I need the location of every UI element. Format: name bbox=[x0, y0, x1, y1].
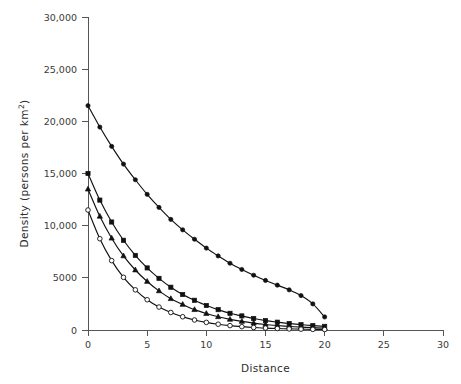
data-point-marker bbox=[204, 320, 209, 325]
data-point-marker bbox=[252, 273, 256, 277]
data-point-marker bbox=[86, 171, 90, 175]
data-point-marker bbox=[192, 298, 196, 302]
data-point-marker bbox=[240, 314, 244, 318]
data-point-marker bbox=[322, 327, 327, 332]
svg-text:Density (persons per km2): Density (persons per km2) bbox=[17, 99, 30, 247]
data-point-marker bbox=[157, 205, 161, 209]
data-point-marker bbox=[311, 302, 315, 306]
x-tick-label: 25 bbox=[378, 339, 390, 350]
data-point-marker bbox=[275, 283, 279, 287]
data-point-marker bbox=[287, 288, 291, 292]
data-point-marker bbox=[192, 237, 196, 241]
y-tick-label: 10,000 bbox=[44, 220, 77, 231]
data-point-marker bbox=[121, 162, 125, 166]
data-point-marker bbox=[181, 228, 185, 232]
data-point-marker bbox=[86, 104, 90, 108]
data-point-marker bbox=[145, 266, 149, 270]
data-point-marker bbox=[311, 327, 316, 332]
data-point-marker bbox=[263, 326, 268, 331]
data-point-marker bbox=[240, 267, 244, 271]
x-tick-label: 10 bbox=[200, 339, 212, 350]
data-point-marker bbox=[109, 258, 114, 263]
data-point-marker bbox=[299, 293, 303, 297]
data-point-marker bbox=[204, 246, 208, 250]
data-point-marker bbox=[228, 261, 232, 265]
data-point-marker bbox=[169, 217, 173, 221]
data-point-marker bbox=[157, 305, 162, 310]
data-point-marker bbox=[251, 325, 256, 330]
data-point-marker bbox=[287, 327, 292, 332]
data-point-marker bbox=[216, 308, 220, 312]
data-point-marker bbox=[145, 192, 149, 196]
x-axis-title: Distance bbox=[241, 362, 290, 374]
x-tick-label: 15 bbox=[259, 339, 271, 350]
data-point-marker bbox=[216, 322, 221, 327]
data-point-marker bbox=[133, 288, 138, 293]
data-point-marker bbox=[86, 208, 91, 213]
x-tick-label: 5 bbox=[144, 339, 150, 350]
data-point-marker bbox=[145, 297, 150, 302]
data-point-marker bbox=[98, 198, 102, 202]
y-tick-label: 5000 bbox=[53, 272, 77, 283]
chart-figure: 0500010,00015,00020,00025,00030,000 0510… bbox=[0, 0, 461, 384]
data-point-marker bbox=[98, 125, 102, 129]
y-tick-label: 25,000 bbox=[44, 64, 77, 75]
data-point-marker bbox=[323, 315, 327, 319]
y-tick-label: 30,000 bbox=[44, 12, 77, 23]
data-point-marker bbox=[240, 324, 245, 329]
data-point-marker bbox=[121, 238, 125, 242]
data-point-marker bbox=[181, 292, 185, 296]
data-point-marker bbox=[216, 254, 220, 258]
data-point-marker bbox=[263, 278, 267, 282]
x-tick-label: 30 bbox=[437, 339, 449, 350]
y-tick-label: 0 bbox=[71, 325, 77, 336]
data-point-marker bbox=[169, 310, 174, 315]
data-point-marker bbox=[192, 318, 197, 323]
data-point-marker bbox=[180, 314, 185, 319]
density-distance-chart: 0500010,00015,00020,00025,00030,000 0510… bbox=[0, 0, 461, 384]
data-point-marker bbox=[110, 220, 114, 224]
data-point-marker bbox=[204, 303, 208, 307]
data-point-marker bbox=[299, 327, 304, 332]
x-tick-label: 20 bbox=[319, 339, 331, 350]
data-point-marker bbox=[228, 311, 232, 315]
data-point-marker bbox=[98, 236, 103, 241]
data-point-marker bbox=[157, 276, 161, 280]
data-point-marker bbox=[169, 285, 173, 289]
y-tick-label: 20,000 bbox=[44, 116, 77, 127]
y-tick-label: 15,000 bbox=[44, 168, 77, 179]
data-point-marker bbox=[133, 178, 137, 182]
data-point-marker bbox=[110, 144, 114, 148]
x-tick-label: 0 bbox=[85, 339, 91, 350]
data-point-marker bbox=[133, 253, 137, 257]
y-axis-title: Density (persons per km2) bbox=[17, 99, 30, 247]
data-point-marker bbox=[121, 275, 126, 280]
data-point-marker bbox=[275, 326, 280, 331]
data-point-marker bbox=[228, 323, 233, 328]
